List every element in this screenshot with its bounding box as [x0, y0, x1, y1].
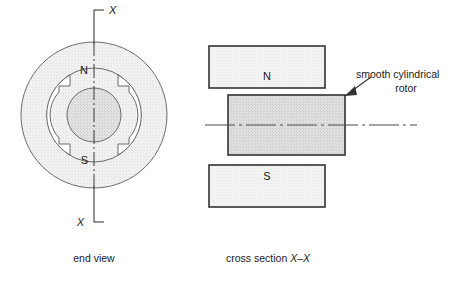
annotation-line-1: smooth cylindrical — [356, 68, 439, 80]
end-view-group: X X N S — [21, 4, 167, 228]
figure-canvas: X X N S N S smooth cylindrical rotor — [0, 0, 460, 282]
end-view-caption: end view — [73, 252, 115, 264]
section-mark-top-label: X — [108, 4, 117, 16]
cross-section-caption: cross section X–X — [226, 252, 311, 264]
section-mark-bottom-label: X — [76, 216, 85, 228]
annotation-arrowhead-icon — [345, 86, 357, 96]
machine-diagram: X X N S N S smooth cylindrical rotor — [0, 0, 460, 282]
cross-section-rotor — [228, 95, 345, 155]
cross-section-caption-section: X–X — [289, 252, 311, 264]
cross-section-caption-prefix: cross section — [226, 252, 290, 264]
cross-section-north-label: N — [263, 70, 271, 82]
cross-section-south-label: S — [263, 170, 270, 182]
end-view-north-label: N — [80, 64, 88, 76]
end-view-south-label: S — [81, 154, 88, 166]
annotation-line-2: rotor — [395, 82, 417, 94]
cross-section-group: N S smooth cylindrical rotor — [205, 46, 439, 207]
